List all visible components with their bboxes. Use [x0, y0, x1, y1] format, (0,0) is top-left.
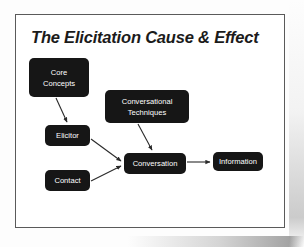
- node-conversation-label: Conversation: [133, 158, 178, 169]
- scan-shadow-bottom: [0, 236, 304, 247]
- node-core-concepts-line1: Core: [43, 67, 75, 78]
- edge-core-concepts-to-elicitor: [56, 98, 67, 122]
- node-core-concepts[interactable]: Core Concepts: [29, 58, 89, 97]
- node-conversational-techniques-line2: Techniques: [122, 107, 173, 118]
- edge-elicitor-to-conversation: [91, 139, 121, 161]
- node-elicitor-label: Elicitor: [56, 130, 79, 141]
- edge-conv-techniques-to-conversation: [138, 124, 152, 150]
- slide-frame: The Elicitation Cause & Effect Core Conc…: [15, 14, 285, 228]
- node-conversation[interactable]: Conversation: [124, 153, 186, 174]
- node-information[interactable]: Information: [213, 152, 263, 171]
- node-information-label: Information: [219, 156, 257, 167]
- node-core-concepts-line2: Concepts: [43, 78, 75, 89]
- scanned-page: The Elicitation Cause & Effect Core Conc…: [0, 0, 304, 247]
- node-conversational-techniques-line1: Conversational: [122, 96, 173, 107]
- node-contact-label: Contact: [54, 175, 80, 186]
- scan-shadow-right: [289, 0, 304, 247]
- node-contact[interactable]: Contact: [45, 170, 90, 191]
- node-conversational-techniques[interactable]: Conversational Techniques: [105, 90, 189, 123]
- edge-contact-to-conversation: [91, 166, 121, 181]
- node-elicitor[interactable]: Elicitor: [45, 125, 90, 146]
